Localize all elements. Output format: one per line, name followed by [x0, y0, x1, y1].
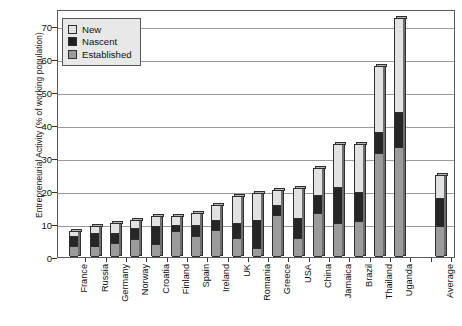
x-tick-mark	[85, 258, 86, 262]
y-tick-label: 0	[0, 253, 52, 264]
legend-label-new: New	[82, 24, 101, 35]
bar-side-face	[403, 18, 406, 256]
bar-top-face	[376, 64, 387, 67]
x-tick-label-finland: Finland	[181, 264, 191, 294]
x-tick-label-greece: Greece	[282, 264, 292, 294]
bar-segment-nascent	[131, 229, 139, 241]
y-tick-label: 50	[0, 87, 52, 98]
bar-side-face	[302, 188, 305, 256]
bar-segment-new	[314, 169, 322, 195]
bar-side-face	[444, 175, 447, 256]
bar-segment-nascent	[212, 221, 220, 231]
bar-segment-established	[152, 245, 160, 257]
bar-segment-new	[111, 224, 119, 234]
bar-side-face	[220, 205, 223, 256]
legend-item-new: New	[68, 24, 132, 35]
bar-segment-new	[334, 145, 342, 188]
bar-top-face	[437, 173, 448, 176]
x-tick-label-ireland: Ireland	[221, 264, 231, 292]
bar-segment-new	[131, 221, 139, 229]
bar-segment-new	[375, 67, 383, 133]
x-tick-mark	[207, 258, 208, 262]
bar-top-face	[213, 203, 224, 206]
y-tick-label: 60	[0, 54, 52, 65]
x-tick-label-norway: Norway	[140, 264, 150, 295]
bar-segment-new	[395, 19, 403, 113]
legend-swatch-new-icon	[68, 25, 77, 34]
bar-top-face	[112, 221, 123, 224]
bar-segment-established	[375, 154, 383, 257]
bar-segment-established	[253, 249, 261, 257]
bar-side-face	[160, 216, 163, 256]
bar-side-face	[261, 193, 264, 256]
bar-segment-nascent	[172, 226, 180, 233]
bar-top-face	[153, 214, 164, 217]
x-tick-label-uganda: Uganda	[404, 264, 414, 296]
x-tick-mark	[329, 258, 330, 262]
x-tick-mark	[268, 258, 269, 262]
x-tick-label-romania: Romania	[262, 264, 272, 301]
legend-swatch-nascent-icon	[68, 37, 77, 46]
x-tick-label-china: China	[323, 264, 333, 288]
bar-segment-established	[111, 244, 119, 257]
bar-segment-nascent	[111, 234, 119, 244]
bar-side-face	[139, 220, 142, 256]
bar-top-face	[295, 186, 306, 189]
bar-segment-established	[273, 216, 281, 257]
bar-segment-established	[212, 231, 220, 257]
bar-segment-new	[152, 217, 160, 227]
x-axis-labels: FranceRussiaGermanyNorwayCroatiaFinlandS…	[57, 258, 455, 326]
bar-segment-new	[355, 145, 363, 193]
bar-segment-established	[355, 222, 363, 257]
bar-top-face	[254, 191, 265, 194]
x-tick-label-average: Average	[445, 264, 455, 298]
x-tick-mark	[349, 258, 350, 262]
legend-item-nascent: Nascent	[68, 36, 132, 47]
x-tick-label-usa: USA	[303, 264, 313, 283]
bar-top-face	[92, 224, 103, 227]
x-tick-mark	[248, 258, 249, 262]
x-tick-label-jamaica: Jamaica	[343, 264, 353, 298]
bar-top-face	[132, 218, 143, 221]
legend-swatch-established-icon	[68, 50, 77, 59]
x-tick-mark	[167, 258, 168, 262]
legend-item-established: Established	[68, 49, 132, 60]
x-tick-label-russia: Russia	[100, 264, 110, 292]
x-tick-mark	[106, 258, 107, 262]
x-tick-mark	[187, 258, 188, 262]
bar-segment-established	[395, 148, 403, 257]
x-tick-label-croatia: Croatia	[161, 264, 171, 294]
bar-segment-new	[172, 217, 180, 225]
bar-segment-established	[131, 240, 139, 257]
bar-segment-established	[314, 214, 322, 257]
bar-segment-established	[91, 247, 99, 257]
bar-side-face	[322, 168, 325, 256]
bar-top-face	[315, 166, 326, 169]
x-tick-mark	[451, 258, 452, 262]
bar-segment-new	[294, 189, 302, 219]
bar-segment-nascent	[355, 193, 363, 223]
bar-side-face	[342, 144, 345, 256]
bar-segment-new	[233, 197, 241, 223]
entrepreneurial-activity-chart: Entrepreneurial Activity (% of working p…	[0, 0, 462, 326]
bar-side-face	[78, 231, 81, 256]
chart-legend: New Nascent Established	[62, 18, 141, 66]
x-tick-mark	[146, 258, 147, 262]
bar-segment-established	[192, 237, 200, 257]
bar-segment-nascent	[375, 133, 383, 154]
bar-top-face	[234, 194, 245, 197]
x-tick-mark	[390, 258, 391, 262]
legend-label-established: Established	[82, 49, 132, 60]
bar-segment-nascent	[294, 219, 302, 239]
bar-segment-nascent	[314, 196, 322, 214]
bar-segment-nascent	[253, 221, 261, 249]
x-tick-label-france: France	[79, 264, 89, 293]
bar-side-face	[200, 213, 203, 256]
bar-segment-established	[334, 224, 342, 257]
y-tick-label: 40	[0, 120, 52, 131]
x-tick-mark	[228, 258, 229, 262]
bar-segment-nascent	[273, 206, 281, 216]
bar-side-face	[363, 144, 366, 256]
bar-top-face	[173, 214, 184, 217]
bar-top-face	[274, 188, 285, 191]
